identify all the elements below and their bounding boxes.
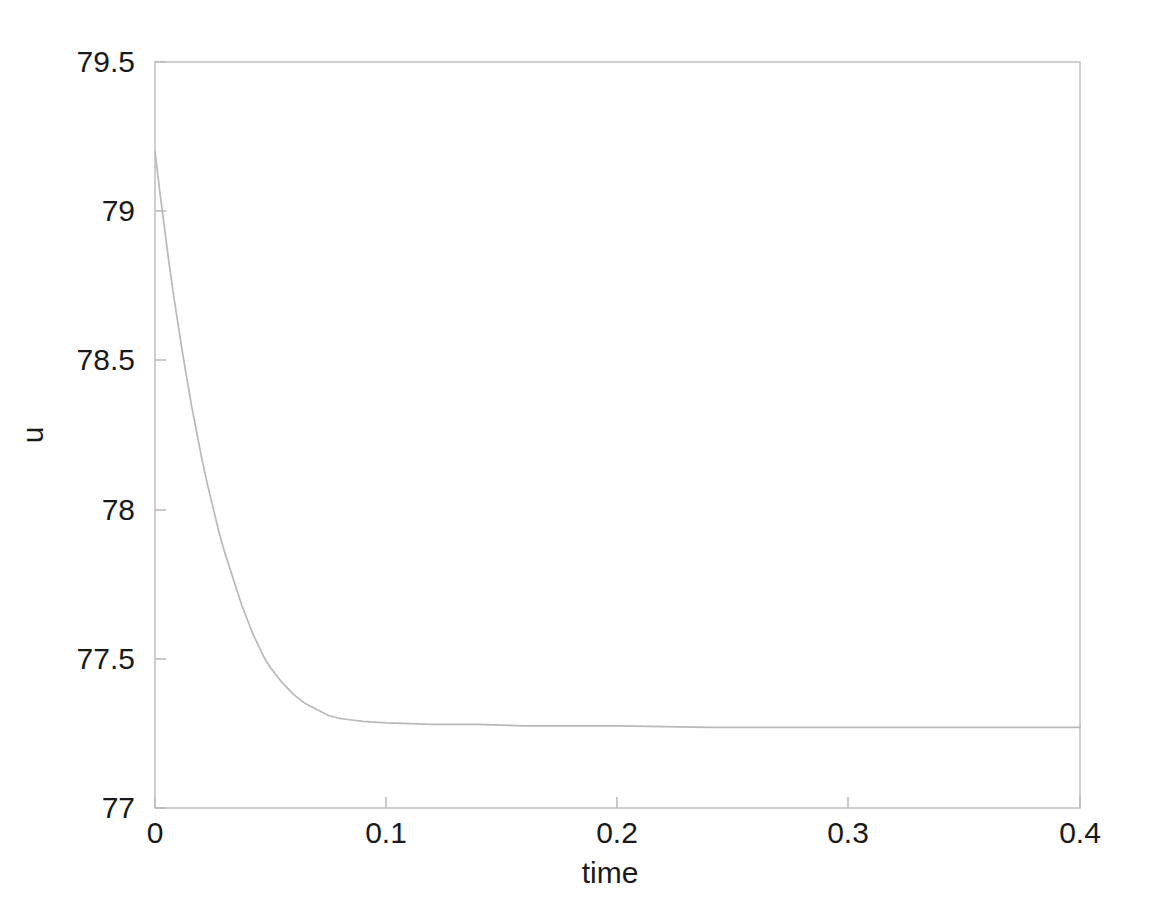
y-axis-ticks — [155, 62, 166, 808]
data-series-u — [155, 152, 1080, 728]
xtick-label-0-2: 0.2 — [577, 818, 657, 848]
ytick-label-78: 78 — [30, 495, 135, 525]
ytick-label-79-5: 79.5 — [30, 47, 135, 77]
ytick-label-77-5: 77.5 — [30, 644, 135, 674]
ytick-label-78-5: 78.5 — [30, 345, 135, 375]
plot-box — [155, 62, 1080, 808]
y-axis-title: u — [18, 420, 48, 450]
ytick-label-79: 79 — [30, 196, 135, 226]
xtick-label-0-4: 0.4 — [1040, 818, 1120, 848]
xtick-label-0-3: 0.3 — [808, 818, 888, 848]
plot-canvas — [0, 0, 1155, 919]
x-axis-ticks — [155, 797, 1080, 808]
chart-figure: 79.5 79 78.5 78 77.5 77 0 0.1 0.2 0.3 0.… — [0, 0, 1155, 919]
xtick-label-0: 0 — [115, 818, 195, 848]
x-axis-title: time — [540, 858, 680, 888]
xtick-label-0-1: 0.1 — [346, 818, 426, 848]
